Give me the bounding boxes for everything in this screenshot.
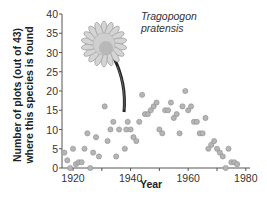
data-point bbox=[65, 158, 70, 163]
x-axis-label: Year bbox=[140, 178, 162, 190]
data-point bbox=[88, 165, 93, 170]
data-point bbox=[183, 88, 188, 93]
data-point bbox=[79, 160, 84, 165]
data-point bbox=[122, 146, 127, 151]
x-tick-label: 1960 bbox=[177, 172, 201, 184]
y-axis-label: Number of plots (out of 43) where this s… bbox=[2, 20, 44, 170]
y-tick-label: 5 bbox=[52, 143, 58, 155]
data-point bbox=[85, 131, 90, 136]
data-point bbox=[212, 138, 217, 143]
data-point bbox=[125, 119, 130, 124]
data-point bbox=[220, 154, 225, 159]
data-point bbox=[108, 127, 113, 132]
data-point bbox=[223, 165, 228, 170]
data-points bbox=[62, 88, 240, 170]
data-point bbox=[111, 119, 116, 124]
data-point bbox=[188, 104, 193, 109]
data-point bbox=[102, 104, 107, 109]
data-point bbox=[194, 119, 199, 124]
data-point bbox=[165, 108, 170, 113]
data-point bbox=[128, 127, 133, 132]
data-point bbox=[180, 104, 185, 109]
data-point bbox=[160, 131, 165, 136]
y-tick-label: 20 bbox=[46, 85, 58, 97]
data-point bbox=[62, 150, 67, 155]
data-point bbox=[68, 165, 73, 170]
data-point bbox=[96, 154, 101, 159]
data-point bbox=[140, 92, 145, 97]
data-point bbox=[177, 131, 182, 136]
x-tick-label: 1940 bbox=[119, 172, 143, 184]
data-point bbox=[82, 146, 87, 151]
data-point bbox=[116, 127, 121, 132]
data-point bbox=[70, 146, 75, 151]
data-point bbox=[105, 138, 110, 143]
x-tick-label: 1980 bbox=[234, 172, 258, 184]
data-point bbox=[226, 146, 231, 151]
y-tick-label: 40 bbox=[46, 8, 58, 20]
data-point bbox=[200, 131, 205, 136]
data-point bbox=[235, 162, 240, 167]
flower-illustration bbox=[81, 21, 127, 112]
data-point bbox=[93, 135, 98, 140]
data-point bbox=[203, 115, 208, 120]
y-axis: 0510152025303540 bbox=[46, 8, 62, 174]
data-point bbox=[114, 154, 119, 159]
y-tick-label: 30 bbox=[46, 47, 58, 59]
y-tick-label: 15 bbox=[46, 104, 58, 116]
y-tick-label: 0 bbox=[52, 162, 58, 174]
data-point bbox=[134, 138, 139, 143]
data-point bbox=[174, 112, 179, 117]
y-tick-label: 35 bbox=[46, 27, 58, 39]
y-tick-label: 10 bbox=[46, 124, 58, 136]
data-point bbox=[168, 100, 173, 105]
y-tick-label: 25 bbox=[46, 66, 58, 78]
data-point bbox=[91, 150, 96, 155]
data-point bbox=[154, 100, 159, 105]
data-point bbox=[137, 119, 142, 124]
species-annotation: Tragopogonpratensis bbox=[141, 10, 197, 34]
x-tick-label: 1920 bbox=[61, 172, 85, 184]
